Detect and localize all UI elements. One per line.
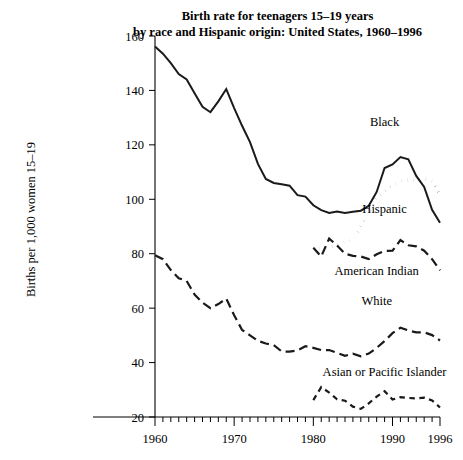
series-line-asian-or-pacific-islander: [313, 387, 440, 409]
x-tick-label: 1996: [428, 432, 453, 446]
y-tick-label: 100: [125, 193, 144, 207]
series-annotations: BlackHispanicAmerican IndianWhiteAsian o…: [323, 115, 448, 379]
x-axis-ticks: 19601970198019901996: [143, 417, 453, 446]
y-tick-label: 60: [132, 302, 145, 316]
y-tick-label: 160: [125, 30, 144, 44]
series-label-hispanic: Hispanic: [362, 202, 407, 216]
series-label-asian-or-pacific-islander: Asian or Pacific Islander: [323, 365, 448, 379]
series-label-american-indian: American Indian: [334, 264, 419, 278]
x-tick-label: 1990: [380, 432, 405, 446]
y-tick-label: 140: [125, 84, 144, 98]
y-axis-ticks: 20406080100120140160: [125, 30, 155, 425]
x-tick-label: 1970: [222, 432, 247, 446]
chart-page: Birth rate for teenagers 15–19 years by …: [0, 0, 463, 460]
line-chart-plot: 20406080100120140160 1960197019801990199…: [0, 0, 463, 460]
x-tick-label: 1980: [301, 432, 326, 446]
y-tick-label: 120: [125, 138, 144, 152]
series-label-white: White: [361, 294, 392, 308]
x-tick-label: 1960: [143, 432, 168, 446]
series-line-black: [155, 47, 440, 223]
chart-axes: [93, 36, 440, 417]
series-label-black: Black: [370, 115, 400, 129]
y-tick-label: 40: [132, 356, 145, 370]
chart-series: [155, 47, 440, 409]
y-tick-label: 80: [132, 247, 145, 261]
